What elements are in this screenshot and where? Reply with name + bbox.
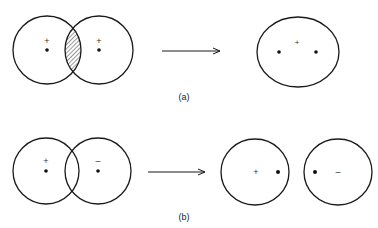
- right-nucleus-dot: [96, 169, 100, 173]
- left-nucleus-dot: [45, 48, 49, 52]
- right-charge-label: +: [96, 36, 101, 46]
- panel-b: + – + – (b): [13, 138, 372, 222]
- separated-right-charge: –: [335, 167, 340, 177]
- panel-a-after: +: [257, 17, 339, 87]
- separated-left-charge: +: [253, 167, 258, 177]
- panel-a-before: + +: [13, 16, 133, 84]
- merged-ellipse: [257, 17, 339, 87]
- panel-a: + + + (a): [13, 16, 339, 102]
- right-nucleus-dot: [97, 48, 101, 52]
- merged-left-dot: [277, 50, 281, 54]
- separated-right-dot: [313, 170, 317, 174]
- panel-a-label: (a): [179, 92, 190, 102]
- left-nucleus-dot: [44, 169, 48, 173]
- panel-b-before: + –: [13, 138, 131, 204]
- panel-b-label: (b): [179, 212, 190, 222]
- merged-right-dot: [314, 50, 318, 54]
- separated-left-dot: [276, 170, 280, 174]
- merged-charge-label: +: [295, 38, 300, 47]
- diagram: + + + (a) + – + –: [0, 0, 378, 228]
- left-charge-label: +: [44, 36, 49, 46]
- right-charge-label: –: [95, 156, 100, 166]
- panel-b-after: + –: [221, 139, 372, 205]
- left-charge-label: +: [43, 156, 48, 166]
